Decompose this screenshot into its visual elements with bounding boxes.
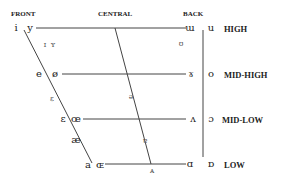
- front-diagonal: [24, 30, 92, 163]
- vowel-cap-a: ᴀ: [150, 167, 154, 175]
- vowel-y: y: [27, 23, 33, 33]
- vowel-turned-a: ɐ: [143, 137, 147, 145]
- vowel-o: o: [208, 69, 214, 79]
- vowel-open-o: ɔ: [208, 114, 214, 124]
- vowel-epsilon: ɛ: [60, 114, 65, 124]
- vowel-wedge: ʌ: [190, 114, 196, 124]
- vowel-i: i: [14, 23, 17, 33]
- vowel-gamma: ɤ: [188, 69, 194, 79]
- vowel-a: a: [85, 160, 91, 170]
- vowel-uu: ɯ: [185, 23, 194, 33]
- vowel-Y: ʏ: [51, 41, 56, 49]
- vowel-ae: æ: [71, 135, 80, 145]
- front-label: FRONT: [11, 10, 36, 18]
- vowel-schwa: ə: [129, 93, 133, 101]
- vowel-alpha: ɑ: [187, 159, 193, 169]
- vowel-u: u: [208, 23, 214, 33]
- vowel-turned-alpha: ɒ: [208, 159, 214, 169]
- vowel-oe: ø: [52, 69, 58, 79]
- height-low: LOW: [224, 160, 245, 170]
- vowel-E-small: ɛ: [50, 95, 54, 103]
- vowel-oe-ligature: œ: [71, 114, 81, 124]
- height-high: HIGH: [224, 24, 247, 34]
- back-label: BACK: [183, 10, 203, 18]
- central-label: CENTRAL: [98, 10, 132, 18]
- vowel-OE: ɶ: [96, 160, 104, 170]
- height-mid-low: MID-LOW: [222, 115, 263, 125]
- vowel-e: e: [36, 69, 42, 79]
- vowel-I: ɪ: [44, 41, 46, 49]
- height-mid-high: MID-HIGH: [224, 70, 267, 80]
- vowel-upsilon: ʊ: [179, 40, 184, 48]
